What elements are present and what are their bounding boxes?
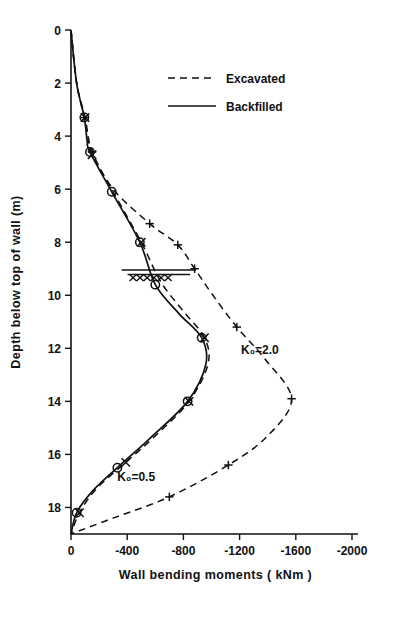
annotation-k0-2: K₀=2.0: [241, 343, 279, 357]
x-axis-title: Wall bending moments ( kNm ): [119, 568, 312, 582]
x-tick-label: -800: [171, 544, 195, 558]
y-tick-label: 16: [48, 448, 62, 462]
y-tick-label: 6: [54, 183, 61, 197]
y-tick-label: 2: [54, 77, 61, 91]
y-tick-label: 4: [54, 130, 61, 144]
x-tick-label: -2000: [337, 544, 368, 558]
y-tick-label: 8: [54, 236, 61, 250]
y-axis-title: Depth below top of wall (m): [9, 195, 23, 368]
x-tick-label: -1200: [224, 544, 255, 558]
legend-label-excavated: Excavated: [226, 72, 285, 86]
y-tick-label: 0: [54, 24, 61, 38]
y-tick-label: 10: [48, 289, 62, 303]
x-tick-label: -1600: [280, 544, 311, 558]
y-tick-label: 18: [48, 501, 62, 515]
y-tick-label: 14: [48, 395, 62, 409]
annotation-k0-05: K₀=0.5: [117, 470, 155, 484]
legend-label-backfilled: Backfilled: [226, 100, 283, 114]
x-tick-label: -400: [115, 544, 139, 558]
chart-canvas: 0246810121416180-400-800-1200-1600-2000W…: [0, 0, 402, 629]
bending-moment-chart: 0246810121416180-400-800-1200-1600-2000W…: [0, 0, 402, 629]
x-tick-label: 0: [68, 544, 75, 558]
y-tick-label: 12: [48, 342, 62, 356]
